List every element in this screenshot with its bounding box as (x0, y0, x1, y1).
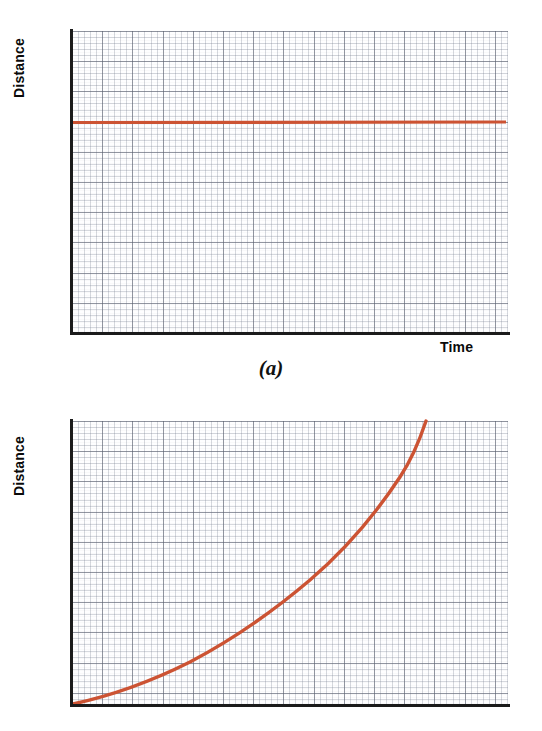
series-line-b (70, 419, 508, 707)
y-axis-label-a: Distance (11, 31, 27, 105)
y-axis-label-b: Distance (11, 429, 27, 503)
y-axis-b (70, 419, 73, 707)
plot-area-a (70, 29, 508, 335)
figure-b: Distance Time (b) (0, 400, 542, 731)
figure-caption-a: (a) (0, 356, 542, 381)
series-line-a (70, 29, 508, 335)
plot-area-b (70, 419, 508, 707)
distance-line-constant (72, 122, 506, 123)
x-axis-b (70, 704, 510, 707)
figure-a: Distance Time (a) (0, 0, 542, 400)
distance-curve-accelerating (73, 421, 426, 704)
x-axis-a (70, 332, 510, 335)
y-axis-a (70, 29, 73, 335)
x-axis-label-a: Time (440, 339, 473, 355)
